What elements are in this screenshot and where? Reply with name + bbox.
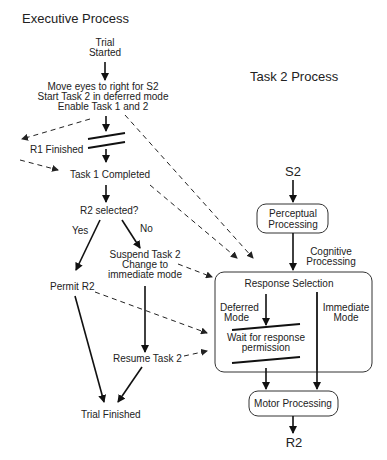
dashed-enable-to-response — [125, 115, 253, 258]
arrow-resume-to-finished — [118, 367, 142, 402]
permit-r2-label: Permit R2 — [50, 281, 95, 292]
response-selection-label: Response Selection — [245, 278, 334, 289]
task1-completed-label: Task 1 Completed — [70, 169, 150, 180]
arrow-permit-to-finished — [75, 296, 104, 402]
dashed-suspend-to-response — [178, 264, 212, 277]
suspend-line-3: immediate mode — [108, 269, 182, 280]
dashed-resume-to-response — [184, 351, 207, 356]
gate-bar-bottom — [88, 142, 125, 148]
gate-bar-top — [88, 133, 125, 139]
trial-started-label-2: Started — [89, 47, 121, 58]
arrow-no-to-suspend — [122, 220, 140, 248]
wait-line-2: permission — [242, 342, 290, 353]
dashed-task1-to-response — [150, 185, 237, 258]
no-label: No — [140, 223, 153, 234]
move-eyes-line-3: Enable Task 1 and 2 — [58, 101, 149, 112]
s2-label: S2 — [285, 164, 301, 179]
perceptual-line-1: Perceptual — [269, 208, 317, 219]
trial-finished-label: Trial Finished — [81, 409, 141, 420]
r2-output-label: R2 — [286, 435, 303, 450]
wait-bar-bottom — [232, 357, 300, 363]
executive-process-title: Executive Process — [22, 11, 129, 26]
r2-selected-label: R2 selected? — [80, 205, 139, 216]
dashed-enable-to-r1 — [22, 119, 90, 139]
task2-process-title: Task 2 Process — [250, 69, 339, 84]
cognitive-line-2: Processing — [306, 256, 355, 267]
dashed-permit-to-response — [95, 292, 207, 333]
motor-processing-label: Motor Processing — [254, 398, 332, 409]
r1-finished-label: R1 Finished — [30, 144, 83, 155]
deferred-line-2: Mode — [224, 312, 249, 323]
yes-label: Yes — [72, 225, 88, 236]
dashed-r1-to-task1 — [20, 160, 58, 170]
diagram-canvas: Executive Process Trial Started Move eye… — [0, 0, 387, 460]
resume-task2-label: Resume Task 2 — [113, 353, 182, 364]
perceptual-line-2: Processing — [268, 219, 317, 230]
immediate-line-2: Mode — [333, 312, 358, 323]
